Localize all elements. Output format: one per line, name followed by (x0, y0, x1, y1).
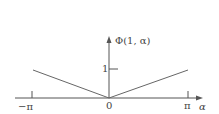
x-tick-label-zero: 0 (106, 101, 112, 111)
chart-plot (0, 0, 219, 114)
series-line (33, 70, 188, 98)
x-axis-arrow-icon (196, 96, 203, 101)
y-axis-label: Φ(1, α) (115, 36, 150, 46)
y-tick-label-one: 1 (102, 64, 108, 74)
x-tick-label-neg-pi: −π (18, 102, 33, 112)
x-tick-label-pi: π (184, 101, 191, 111)
y-axis-arrow-icon (107, 36, 112, 43)
x-axis-label: α (199, 102, 206, 112)
